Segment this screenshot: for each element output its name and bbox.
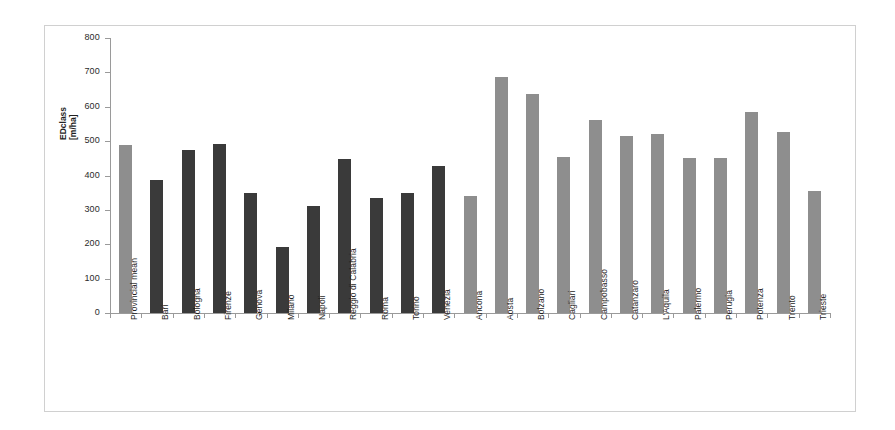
bar [495,77,508,314]
x-axis-tick-label: Firenze [223,291,233,320]
bar [745,112,758,313]
x-axis-tick-mark [486,313,487,318]
y-axis-tick-label: 700 [70,66,100,76]
x-axis-tick-mark [799,313,800,318]
x-axis-tick-label: Potenza [755,288,765,320]
y-axis-tick-label: 500 [70,135,100,145]
x-axis-tick-label: Roma [380,297,390,320]
x-axis-tick-mark [454,313,455,318]
y-axis-title-line-1: EDclass [58,107,68,140]
y-axis-tick-label: 800 [70,32,100,42]
bar [213,144,226,313]
y-axis-tick-label: 0 [70,307,100,317]
x-axis-tick-mark [141,313,142,318]
y-axis-tick-label: 600 [70,101,100,111]
bar [150,180,163,313]
x-axis-tick-label: Venezia [442,289,452,320]
x-axis-tick-mark [580,313,581,318]
x-axis-tick-mark [267,313,268,318]
x-axis-tick-label: Aosta [505,298,515,320]
x-axis-tick-label: Bologna [192,288,202,320]
x-axis-tick-mark [642,313,643,318]
x-axis-tick-mark [673,313,674,318]
x-axis-tick-mark [329,313,330,318]
x-axis-tick-mark [110,313,111,318]
x-axis-tick-label: L'Aquila [661,289,671,320]
y-axis-tick-label: 400 [70,170,100,180]
y-axis-tick-label: 200 [70,238,100,248]
x-axis-tick-mark [611,313,612,318]
bar [526,94,539,313]
y-axis-tick-label: 300 [70,204,100,214]
x-axis-tick-label: Reggio di Calabria [348,248,358,320]
x-axis-tick-mark [204,313,205,318]
x-axis-tick-mark [392,313,393,318]
x-axis-tick-mark [298,313,299,318]
x-axis-tick-label: Provincial mean [129,258,139,320]
x-axis-tick-mark [173,313,174,318]
y-axis-tick-label: 100 [70,273,100,283]
chart-figure: EDclass [m/ha] 8007006005004003002001000… [0,0,895,430]
x-axis-tick-mark [767,313,768,318]
x-axis-tick-label: Torino [411,296,421,320]
x-axis-tick-label: Catanzaro [630,280,640,320]
x-axis-tick-mark [235,313,236,318]
x-axis-tick-mark [830,313,831,318]
x-axis-tick-label: Cagliari [567,290,577,320]
x-axis-tick-mark [705,313,706,318]
x-axis-tick-mark [736,313,737,318]
bar [777,132,790,314]
x-axis-tick-label: Ancona [474,291,484,320]
x-axis-tick-mark [423,313,424,318]
x-axis-tick-label: Bolzano [536,289,546,320]
bar [370,198,383,314]
bar [651,134,664,313]
x-axis-line [110,313,831,314]
x-axis-tick-label: Trieste [818,294,828,320]
x-axis-tick-label: Genova [254,290,264,320]
x-axis-tick-label: Bari [160,304,170,320]
x-axis-tick-label: Campobasso [599,269,609,320]
x-axis-tick-mark [360,313,361,318]
x-axis-tick-label: Perugia [724,290,734,320]
x-axis-tick-mark [517,313,518,318]
bars-layer [110,38,831,313]
x-axis-tick-label: Trento [787,295,797,320]
x-axis-tick-label: Milano [286,294,296,320]
x-axis-tick-mark [548,313,549,318]
x-axis-tick-label: Napoli [317,295,327,320]
x-axis-tick-label: Palermo [693,288,703,320]
